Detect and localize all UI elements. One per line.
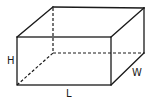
box-diagram: H L W <box>0 0 150 98</box>
top-back-edge <box>53 7 144 8</box>
width-label: W <box>132 67 142 78</box>
top-right-edge <box>111 8 144 37</box>
top-left-edge <box>17 7 53 37</box>
height-label: H <box>7 55 15 66</box>
hidden-bottom-left-edge <box>17 53 53 85</box>
front-face <box>17 37 111 85</box>
length-label: L <box>66 88 72 98</box>
